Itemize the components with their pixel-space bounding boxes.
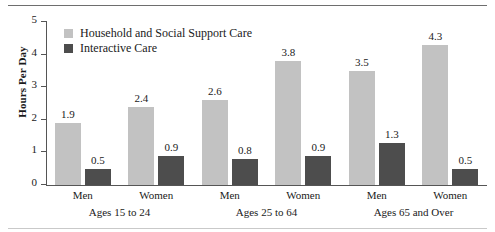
bar-value-label: 0.5 [446,155,484,166]
x-axis-group-label: Ages 25 to 64 [193,206,340,218]
bar [158,156,184,185]
bar-value-label: 0.5 [79,155,117,166]
x-axis-category-label: Women [120,189,194,201]
legend-item: Household and Social Support Care [64,26,252,40]
legend-label: Interactive Care [80,42,157,55]
bar [232,159,258,185]
bar-value-label: 0.9 [299,142,337,153]
legend-label: Household and Social Support Care [80,27,252,40]
bar [202,100,228,185]
bar-value-label: 4.3 [416,31,454,42]
bar [275,61,301,185]
bar-value-label: 0.8 [226,145,264,156]
y-axis-tick-label: 5 [32,14,38,25]
bar [128,107,154,185]
x-axis-line [46,185,487,186]
bar [85,169,111,185]
bar [422,45,448,185]
chart-figure: Hours Per Day 012345 1.90.52.40.92.60.83… [0,0,495,232]
bar [379,143,405,185]
bar-value-label: 1.3 [373,129,411,140]
top-divider-rule [8,5,487,6]
y-axis-tick-label: 0 [32,177,38,188]
x-axis-category-label: Men [340,189,414,201]
x-axis-category-label: Women [414,189,488,201]
chart-legend: Household and Social Support Care Intera… [64,26,252,56]
y-axis-tick-label: 4 [32,47,38,58]
bar [305,156,331,185]
x-axis-category-label: Men [46,189,120,201]
legend-item: Interactive Care [64,41,252,55]
x-axis-category-label: Women [267,189,341,201]
legend-swatch-icon [64,44,73,53]
bar [452,169,478,185]
bar [55,123,81,185]
y-axis-title: Hours Per Day [16,17,28,147]
bar-value-label: 2.4 [122,93,160,104]
bar-value-label: 3.5 [343,57,381,68]
y-axis-tick-label: 2 [32,112,38,123]
bar-value-label: 3.8 [269,47,307,58]
bar-value-label: 0.9 [152,142,190,153]
bar-value-label: 2.6 [196,86,234,97]
bottom-divider-rule [8,228,487,229]
legend-swatch-icon [64,29,73,38]
x-axis-category-label: Men [193,189,267,201]
bar-value-label: 1.9 [49,109,87,120]
y-axis-tick-label: 3 [32,79,38,90]
x-axis-group-label: Ages 65 and Over [340,206,487,218]
x-axis-group-label: Ages 15 to 24 [46,206,193,218]
y-axis-tick-label: 1 [32,144,38,155]
bar [349,71,375,185]
